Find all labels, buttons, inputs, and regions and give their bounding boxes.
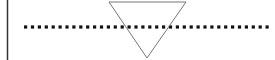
inverted-triangle-shape	[109, 2, 186, 58]
dot	[238, 25, 241, 28]
dot	[114, 25, 117, 28]
dot	[52, 25, 55, 28]
dot	[210, 25, 213, 28]
dot	[183, 25, 186, 28]
dot	[134, 25, 137, 28]
dot	[252, 25, 255, 28]
dot	[176, 25, 179, 28]
dot	[100, 25, 103, 28]
dot	[224, 25, 227, 28]
dot	[128, 25, 131, 28]
dotted-horizontal-line	[24, 25, 269, 28]
dot	[86, 25, 89, 28]
dot	[65, 25, 68, 28]
dot	[155, 25, 158, 28]
dot	[203, 25, 206, 28]
dot	[197, 25, 200, 28]
dot	[266, 25, 269, 28]
diagram-canvas	[0, 0, 275, 60]
dot	[148, 25, 151, 28]
dot	[93, 25, 96, 28]
dot	[141, 25, 144, 28]
dot	[231, 25, 234, 28]
dot	[217, 25, 220, 28]
dot	[72, 25, 75, 28]
dot	[121, 25, 124, 28]
dot	[45, 25, 48, 28]
dot	[79, 25, 82, 28]
dot	[38, 25, 41, 28]
dot	[107, 25, 110, 28]
dot	[31, 25, 34, 28]
dot	[162, 25, 165, 28]
dot	[245, 25, 248, 28]
dot	[59, 25, 62, 28]
dot	[190, 25, 193, 28]
dot	[259, 25, 262, 28]
dot	[24, 25, 27, 28]
